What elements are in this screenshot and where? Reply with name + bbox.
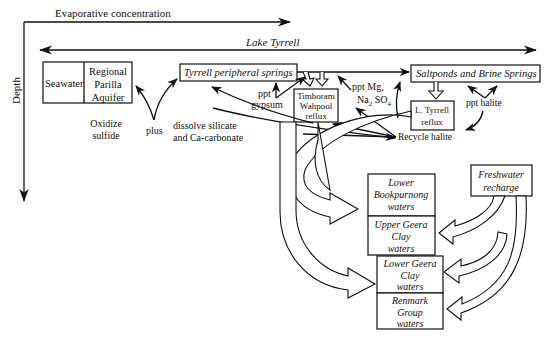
renmark-box: Renmark Group waters [377,293,443,329]
lower-geera-box: Lower Geera Clay waters [377,256,443,293]
ppt-gypsum-line1: ppt [258,88,271,99]
evaporative-concentration-label: Evaporative concentration [55,7,171,19]
ppt-gypsum-line2: gypsum [251,99,283,110]
timboram-line3: reflux [305,111,327,121]
ppt-halite-label: ppt halite [466,98,502,108]
lower-bookpurnong-line2: Bookpurnong [374,189,428,200]
plus-label: plus [146,125,163,136]
saltponds-box: Saltponds and Brine Springs [411,65,540,82]
timboram-line1: Timboram [297,91,335,101]
dissolve-line1: dissolve silicate [173,120,237,131]
depth-label: Depth [10,77,22,104]
lower-geera-line1: Lower Geera [382,258,436,269]
regional-line1: Regional [89,66,127,77]
ppt-na2so4-line: Na2 SO4 [357,94,391,108]
upper-geera-line1: Upper Geera [374,219,427,230]
lower-bookpurnong-box: Lower Bookpurnong waters [368,174,435,216]
timboram-line2: Wahpool [300,101,333,111]
lower-bookpurnong-line1: Lower [387,177,414,188]
upper-geera-line3: waters [388,243,415,254]
lower-geera-line2: Clay [401,270,420,281]
freshwater-line1: Freshwater [477,169,524,180]
regional-line2: Parilla [94,79,122,90]
l-tyrrell-inflow-arrow [429,82,443,99]
plus-to-regional-arrow [136,86,154,120]
renmark-line3: waters [397,318,424,329]
upper-geera-box: Upper Geera Clay waters [368,216,435,255]
timboram-box: Timboram Wahpool reflux [294,89,338,122]
ppt-mg-line1: ppt Mg, [352,81,384,92]
timboram-inflow-arrow [316,72,328,86]
freshwater-line2: recharge [483,182,519,193]
recycle-halite-label: Recycle halite [398,132,452,142]
halite-arrow-right [485,86,497,98]
lower-geera-line3: waters [397,281,424,292]
seawater-label: Seawater [45,78,84,89]
halite-to-recycle-arrow [466,111,483,130]
freshwater-box: Freshwater recharge [471,165,532,196]
upper-geera-line2: Clay [392,231,411,242]
renmark-line2: Group [397,307,423,318]
lake-tyrrell-label: Lake Tyrrell [245,36,299,48]
saltponds-label: Saltponds and Brine Springs [416,68,536,79]
peripheral-springs-box: Tyrrell peripheral springs [180,64,297,81]
oxidize-label-line1: Oxidize [90,118,122,129]
freshwater-to-upper-geera-band [439,196,505,244]
oxidize-label-line2: sulfide [92,130,120,141]
halite-arrow-left [468,86,485,98]
timboram-inflow-arrow-2 [302,72,314,86]
dissolve-line2: and Ca-carbonate [173,132,244,143]
regional-line3: Aquifer [92,92,125,103]
peripheral-springs-label: Tyrrell peripheral springs [184,67,293,78]
l-tyrrell-line2: reflux [421,117,443,127]
l-tyrrell-to-saltponds-arrow [396,82,400,118]
lower-bookpurnong-line3: waters [388,201,415,212]
mg-to-springs-arrow [338,76,351,90]
renmark-line1: Renmark [391,295,429,306]
plus-to-springs-arrow [154,79,177,120]
diagram-canvas: Evaporative concentration Depth Lake Tyr… [0,0,554,342]
seawater-regional-box: Seawater Regional Parilla Aquifer [43,62,132,103]
l-tyrrell-box: L. Tyrrell reflux [411,101,454,130]
l-tyrrell-line1: L. Tyrrell [415,105,450,115]
